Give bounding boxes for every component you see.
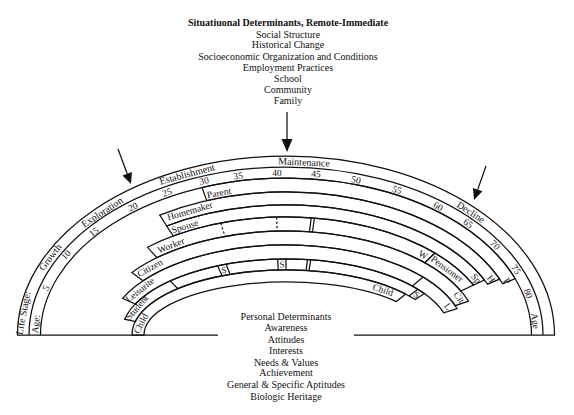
age-labels: Age: 5 10 15 20 25 30 35 40 45 50 55 60 … <box>30 168 541 334</box>
personal-item: Achievement <box>259 367 313 378</box>
rainbow-diagram: Situatiuonal Determinants, Remote-Immedi… <box>0 0 574 415</box>
student-marker-box-edge <box>278 259 279 270</box>
age-label-start: Age: <box>30 314 42 333</box>
worker-dashed-divider <box>221 223 226 236</box>
age-tick: 70 <box>488 238 502 252</box>
worker-double-divider <box>310 218 312 232</box>
role-label-parent: Parent <box>206 186 232 200</box>
life-career-rainbow-figure: Situatiuonal Determinants, Remote-Immedi… <box>0 0 574 415</box>
situational-item: Socioeconomic Organization and Condition… <box>198 51 378 62</box>
situational-title: Situatiuonal Determinants, Remote-Immedi… <box>188 17 389 28</box>
leisurite-divider <box>412 277 423 286</box>
age-tick: 55 <box>391 184 403 196</box>
age-tick: 40 <box>272 168 282 178</box>
age-tick: 75 <box>509 263 523 277</box>
age-tick: 50 <box>350 174 361 186</box>
stage-exploration: Exploration <box>79 194 125 229</box>
personal-item: Awareness <box>265 322 308 333</box>
situational-item: Employment Practices <box>243 62 333 73</box>
arrow-down-right-icon <box>118 149 132 184</box>
role-end-spouse: Sp <box>469 271 483 285</box>
age-label-end: Age <box>529 312 541 329</box>
age-tick: 25 <box>161 186 173 199</box>
personal-item: Biologic Heritage <box>250 391 322 402</box>
situational-item: Social Structure <box>256 29 321 40</box>
role-band-spouse <box>167 205 485 285</box>
age-tick: 30 <box>198 175 210 187</box>
situational-item: Community <box>264 84 312 95</box>
situational-item: Historical Change <box>252 39 325 50</box>
personal-item: Attitudes <box>268 334 305 345</box>
student-divider <box>170 281 178 289</box>
student-double-divider <box>306 260 307 271</box>
role-label-worker: Worker <box>156 235 187 255</box>
situational-item: Family <box>274 95 302 106</box>
personal-item: Interests <box>269 345 303 356</box>
age-tick: 35 <box>233 170 244 181</box>
age-tick: 45 <box>311 169 322 180</box>
arrow-down-icon <box>282 112 293 152</box>
role-end-parent: P <box>501 276 512 286</box>
worker-double-divider <box>313 218 315 232</box>
age-tick: 5 <box>40 283 51 292</box>
age-tick: 80 <box>522 287 535 300</box>
situational-determinants: Situatiuonal Determinants, Remote-Immedi… <box>188 17 389 106</box>
personal-item: Needs & Values <box>254 357 318 368</box>
student-marker: S <box>279 259 284 269</box>
student-double-divider <box>309 260 311 271</box>
personal-item: General & Specific Aptitudes <box>227 379 345 390</box>
personal-title: Personal Determinants <box>241 311 332 322</box>
personal-determinants: Personal Determinants Awareness Attitude… <box>227 311 345 402</box>
arrow-down-left-icon <box>473 166 486 200</box>
situational-item: School <box>274 73 302 84</box>
worker-dashed-divider <box>277 217 278 231</box>
